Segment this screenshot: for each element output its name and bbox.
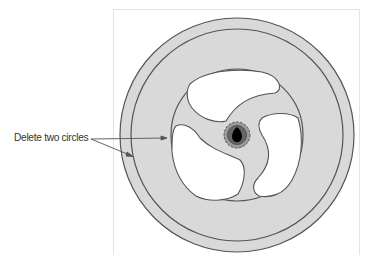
hub [224, 122, 250, 148]
annotation-label: Delete two circles [14, 131, 88, 143]
